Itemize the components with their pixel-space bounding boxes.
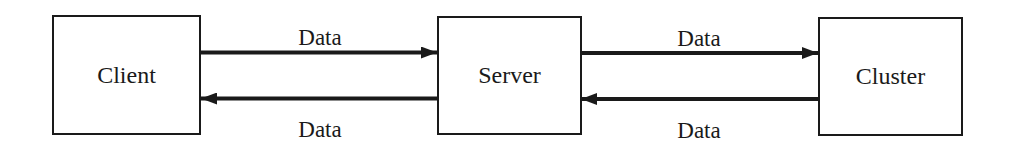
cluster-node: Cluster bbox=[818, 17, 963, 136]
server-node-label: Server bbox=[478, 62, 541, 89]
edge-label-cluster-to-server: Data bbox=[677, 119, 720, 142]
cluster-node-label: Cluster bbox=[856, 63, 925, 90]
client-server-cluster-diagram: Client Server Cluster Data Data Data Dat… bbox=[0, 0, 1009, 151]
client-node: Client bbox=[52, 15, 201, 135]
edge-label-server-to-client: Data bbox=[298, 118, 341, 141]
server-node: Server bbox=[437, 16, 582, 135]
edge-label-client-to-server: Data bbox=[298, 26, 341, 49]
client-node-label: Client bbox=[97, 62, 156, 89]
edge-label-server-to-cluster: Data bbox=[677, 27, 720, 50]
